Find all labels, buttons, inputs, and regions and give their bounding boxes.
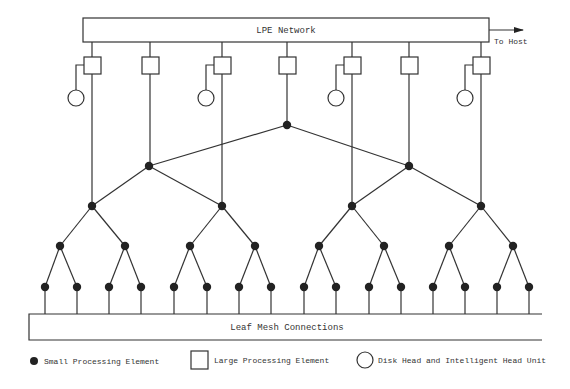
small-processing-element-icon: [477, 202, 485, 210]
circle-icon: [357, 352, 373, 368]
tree-edge: [481, 206, 513, 246]
tree-edge: [149, 166, 222, 206]
tree-edge: [409, 166, 481, 206]
large-processing-element: [198, 42, 231, 206]
large-processing-element: [457, 42, 490, 206]
square-icon: [279, 57, 296, 74]
small-processing-element-icon: [170, 283, 178, 291]
small-processing-element-icon: [73, 283, 81, 291]
small-processing-element-icon: [56, 242, 64, 250]
tree-edge: [60, 206, 92, 246]
tree-edge: [174, 246, 190, 287]
small-processing-element-icon: [365, 283, 373, 291]
square-icon: [473, 57, 490, 74]
leaf-mesh: Leaf Mesh Connections: [29, 314, 542, 340]
disk-connector: [336, 65, 344, 90]
small-processing-element-icon: [348, 202, 356, 210]
large-processing-element: [68, 42, 101, 206]
small-processing-element-icon: [380, 242, 388, 250]
small-processing-element-icon: [186, 242, 194, 250]
legend-item-disk-head: Disk Head and Intelligent Head Unit: [357, 352, 546, 368]
small-processing-elements: [41, 121, 533, 291]
tree-edge: [369, 246, 384, 287]
tree-edge: [497, 246, 513, 287]
tree-edge: [109, 246, 125, 287]
tree-edges: [45, 125, 529, 314]
tree-edge: [239, 246, 255, 287]
small-processing-element-icon: [315, 242, 323, 250]
legend-label: Disk Head and Intelligent Head Unit: [378, 356, 546, 365]
small-processing-element-icon: [88, 202, 96, 210]
small-processing-element-icon: [283, 121, 291, 129]
tree-edge: [352, 166, 409, 206]
disk-connector: [76, 65, 84, 90]
small-processing-element-icon: [145, 162, 153, 170]
tree-edge: [60, 246, 77, 287]
small-processing-element-icon: [332, 283, 340, 291]
small-processing-element-icon: [429, 283, 437, 291]
tree-edge: [513, 246, 529, 287]
small-processing-element-icon: [137, 283, 145, 291]
tree-edge: [190, 246, 207, 287]
tree-edge: [222, 206, 255, 246]
small-processing-element-icon: [251, 242, 259, 250]
tree-edge: [45, 246, 60, 287]
lpe-network-label: LPE Network: [256, 26, 315, 36]
disk-connector: [206, 65, 214, 90]
square-icon: [84, 57, 101, 74]
small-processing-element-icon: [267, 283, 275, 291]
disk-head-icon: [457, 90, 473, 106]
legend-item-small-pe: Small Processing Element: [30, 357, 159, 366]
small-processing-element-icon: [493, 283, 501, 291]
tree-architecture-diagram: LPE Network To Host Leaf Mesh Connection…: [0, 0, 570, 389]
to-host-output: To Host: [489, 30, 528, 46]
small-processing-element-icon: [405, 162, 413, 170]
tree-edge: [304, 246, 319, 287]
tree-edge: [319, 206, 352, 246]
tree-edge: [449, 246, 465, 287]
tree-edge: [149, 125, 287, 166]
tree-edge: [255, 246, 271, 287]
small-processing-element-icon: [218, 202, 226, 210]
small-processing-element-icon: [445, 242, 453, 250]
large-processing-elements: [68, 42, 490, 206]
tree-edge: [287, 125, 409, 166]
square-icon: [344, 57, 361, 74]
tree-edge: [92, 206, 125, 246]
small-processing-element-icon: [105, 283, 113, 291]
small-processing-element-icon: [203, 283, 211, 291]
large-processing-element: [142, 42, 159, 166]
small-processing-element-icon: [121, 242, 129, 250]
small-processing-element-icon: [397, 283, 405, 291]
tree-edge: [449, 206, 481, 246]
legend: Small Processing Element Large Processin…: [30, 351, 546, 369]
filled-circle-icon: [30, 357, 38, 365]
small-processing-element-icon: [300, 283, 308, 291]
legend-label: Small Processing Element: [44, 357, 159, 366]
tree-edge: [352, 206, 384, 246]
tree-edge: [433, 246, 449, 287]
lpe-network: LPE Network: [83, 18, 489, 42]
small-processing-element-icon: [525, 283, 533, 291]
to-host-label: To Host: [494, 37, 528, 46]
small-processing-element-icon: [461, 283, 469, 291]
tree-edge: [190, 206, 222, 246]
disk-connector: [465, 65, 473, 90]
square-icon: [142, 57, 159, 74]
legend-label: Large Processing Element: [214, 356, 329, 365]
disk-head-icon: [68, 90, 84, 106]
tree-edge: [125, 246, 141, 287]
small-processing-element-icon: [41, 283, 49, 291]
small-processing-element-icon: [509, 242, 517, 250]
large-processing-element: [401, 42, 418, 166]
tree-edge: [384, 246, 401, 287]
tree-edge: [92, 166, 149, 206]
tree-edge: [319, 246, 336, 287]
large-processing-element: [328, 42, 361, 206]
large-processing-element: [279, 42, 296, 125]
legend-item-large-pe: Large Processing Element: [191, 351, 329, 369]
square-icon: [401, 57, 418, 74]
small-processing-element-icon: [235, 283, 243, 291]
square-icon: [191, 351, 208, 369]
disk-head-icon: [198, 90, 214, 106]
